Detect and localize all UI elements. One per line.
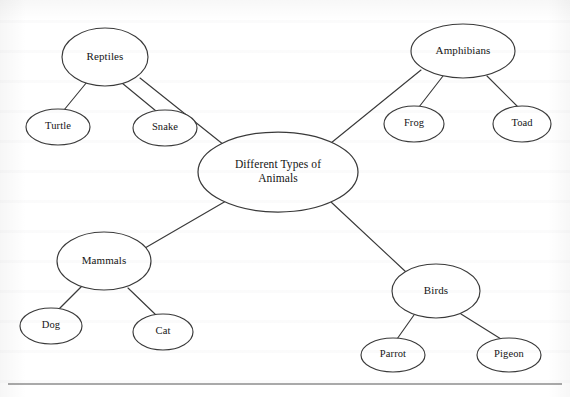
node-ellipse-turtle[interactable]	[26, 109, 90, 145]
node-ellipse-reptiles[interactable]	[62, 28, 148, 86]
connector-amphibians-toad	[487, 76, 518, 107]
connector-root-mammals	[145, 201, 226, 248]
connector-mammals-dog	[58, 287, 81, 310]
node-ellipse-root[interactable]	[198, 132, 358, 212]
node-ellipse-amphibians[interactable]	[411, 24, 515, 78]
node-ellipse-cat[interactable]	[133, 314, 193, 350]
node-ellipse-toad[interactable]	[493, 106, 551, 142]
connector-amphibians-frog	[419, 76, 443, 107]
concept-map-canvas	[0, 0, 570, 397]
connector-reptiles-turtle	[64, 82, 87, 110]
node-ellipse-frog[interactable]	[384, 106, 444, 142]
node-ellipse-birds[interactable]	[392, 264, 480, 318]
node-ellipse-snake[interactable]	[133, 110, 197, 146]
node-ellipse-mammals[interactable]	[57, 232, 151, 290]
node-ellipse-pigeon[interactable]	[477, 338, 541, 372]
node-ellipse-parrot[interactable]	[361, 338, 425, 372]
connector-birds-parrot	[397, 315, 414, 339]
connector-root-birds	[331, 202, 406, 272]
connector-birds-pigeon	[461, 314, 501, 339]
node-ellipse-dog[interactable]	[20, 308, 82, 344]
connector-mammals-cat	[128, 288, 156, 315]
